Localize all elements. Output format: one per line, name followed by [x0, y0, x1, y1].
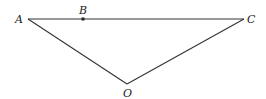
label-A: A: [14, 13, 23, 26]
point-B-marker: [82, 18, 85, 21]
triangle-diagram: A B C O: [0, 0, 266, 99]
label-C: C: [247, 13, 256, 26]
label-B: B: [78, 4, 87, 17]
segment-AO: [28, 19, 127, 84]
segment-OC: [127, 19, 244, 84]
label-O: O: [123, 87, 132, 99]
